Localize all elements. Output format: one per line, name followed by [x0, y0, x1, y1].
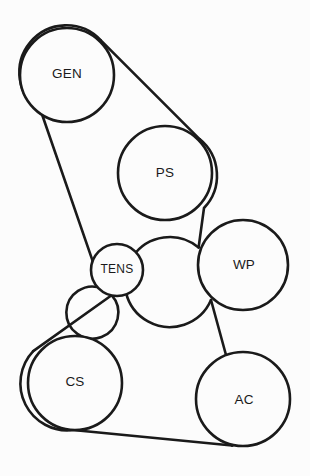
pulley-label-ac: AC: [234, 392, 253, 407]
belt-routing-diagram: GEN PS WP TENS CS AC: [0, 0, 310, 476]
belt-routing-canvas: GEN PS WP TENS CS AC: [0, 0, 310, 476]
belt-segment-gen-to-ps: [101, 40, 200, 139]
pulley-label-gen: GEN: [52, 66, 82, 81]
pulleys-group: [20, 28, 290, 446]
pulley-label-cs: CS: [65, 374, 84, 389]
belt-segment-ac-to-wp: [211, 300, 226, 355]
pulley-label-ps: PS: [156, 165, 174, 180]
pulley-label-tens: TENS: [101, 262, 134, 276]
pulley-label-wp: WP: [233, 257, 255, 272]
